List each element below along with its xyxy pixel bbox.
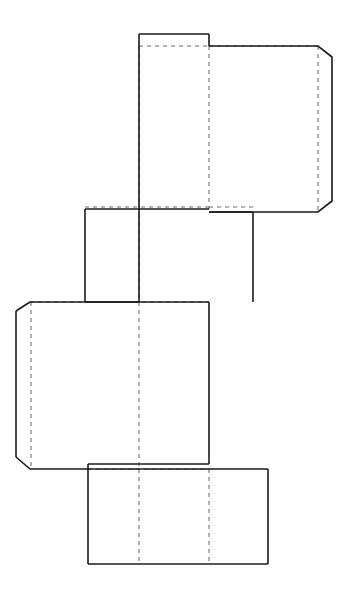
dieline-drawing xyxy=(0,0,356,595)
panel-bottom-panel xyxy=(88,469,268,564)
panel-top-right-flap xyxy=(209,46,332,212)
panel-middle-right-panel xyxy=(209,212,253,302)
panel-middle-left-panel xyxy=(85,209,209,302)
panel-large-left-panel xyxy=(16,302,209,469)
